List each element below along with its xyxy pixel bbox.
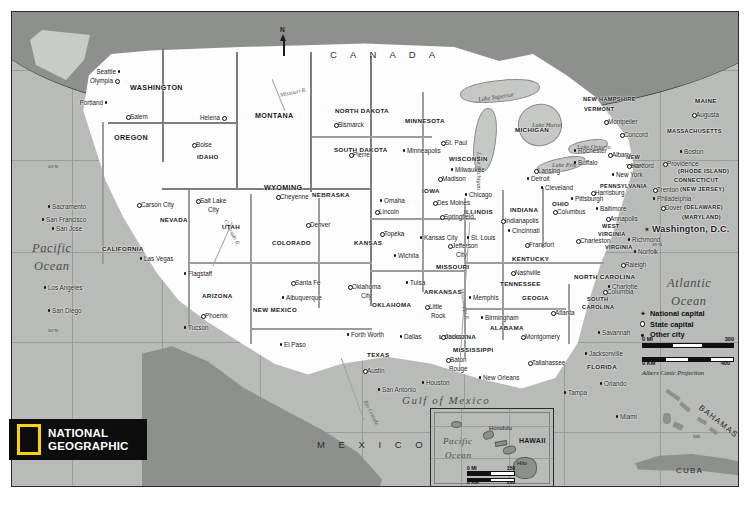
state-label-kentucky-20: KENTUCKY	[512, 256, 549, 262]
city-label-philadelphia-93: Philadelphia	[657, 196, 691, 202]
state-capital-marker-indianapolis-43	[501, 219, 506, 224]
city-label-neworleans-71: New Orleans	[483, 375, 519, 381]
city-label-carsoncity-23: Carson City	[141, 202, 174, 208]
state-label-alabama-34: ALABAMA	[490, 325, 524, 331]
state-capital-marker-springfield-39	[440, 215, 445, 220]
city-dot-philadelphia-93	[653, 197, 656, 200]
state-border	[236, 52, 238, 188]
city-dot-elpaso-35	[280, 343, 283, 346]
legend-item-national-capital: ✦ National capital	[639, 309, 739, 318]
state-capital-marker-dover-94	[661, 206, 666, 211]
city-label-pittsburgh-46: Pittsburgh	[575, 196, 603, 202]
state-capital-circle-icon	[639, 321, 646, 328]
state-label-minnesota-6: MINNESOTA	[405, 118, 445, 124]
state-capital-marker-olympia-1	[115, 79, 120, 84]
state-label-idaho-2: IDAHO	[197, 154, 219, 160]
city-label-elpaso-35: El Paso	[284, 342, 306, 348]
city-label-columbia-56: Columbia	[607, 289, 634, 295]
country-label-cuba: CUBA	[676, 467, 703, 475]
country-label-mexico: M E X I C O	[317, 440, 428, 450]
city-dot-losangeles-28	[44, 286, 47, 289]
state-capital-marker-nashville-57	[511, 271, 516, 276]
inset-city-hilo: Hilo	[517, 461, 527, 467]
state-border	[102, 122, 104, 264]
coordinate-tick: 30°N	[48, 328, 58, 333]
city-label-memphis-58: Memphis	[473, 295, 499, 301]
city-dot-cleveland-14	[541, 186, 544, 189]
city-dot-orlando-80	[600, 382, 603, 385]
state-capital-marker-trenton-92	[653, 188, 658, 193]
north-arrow-label: N	[280, 26, 285, 33]
state-capital-marker-jackson-72	[441, 335, 446, 340]
inset-scale-bar-graphic	[467, 478, 515, 482]
city-dot-sanfrancisco-25	[42, 218, 45, 221]
state-label-texas-37: TEXAS	[367, 352, 389, 358]
inset-scale-bar-miles: 0 MI 150	[467, 471, 515, 476]
state-capital-marker-charleston-51	[576, 239, 581, 244]
state-border	[188, 262, 372, 264]
city-dot-lasvegas-27	[140, 257, 143, 260]
city-dot-flagstaff-30	[184, 272, 187, 275]
city-label-birmingham-73: Birmingham	[485, 315, 519, 321]
state-label-northcarolina-30: NORTH CAROLINA	[574, 274, 635, 280]
state-capital-marker-salem-3	[126, 115, 131, 120]
state-label-wisconsin-7: WISCONSIN	[449, 156, 488, 162]
national-geographic-logo: NATIONAL GEOGRAPHIC	[9, 419, 147, 460]
state-label-ohio-14: OHIO	[552, 201, 569, 207]
scale-bar-graphic	[642, 343, 734, 348]
state-capital-marker-helena-5	[222, 116, 227, 121]
city-label-atlanta-75: Atlanta	[555, 310, 575, 316]
city-label-savannah-76: Savannah	[602, 330, 630, 336]
state-capital-marker-hartford-89	[627, 164, 632, 169]
ocean-label-pacific: Pacific	[32, 242, 72, 255]
city-label-baton-69: Baton	[450, 357, 466, 363]
state-border	[370, 56, 372, 306]
city-label-seattle-0: Seattle	[96, 69, 116, 75]
city-dot-kansascity-38	[420, 236, 423, 239]
city-label-washingtondc-95: Washington, D.C.	[652, 225, 729, 234]
city-label-montgomery-74: Montgomery	[525, 334, 560, 340]
city-dot-baltimore-47	[596, 207, 599, 210]
city-label-boise-4: Boise	[196, 142, 212, 148]
city-dot-rochester-88	[574, 149, 577, 152]
city-label-baltimore-47: Baltimore	[600, 206, 627, 212]
state-capital-marker-pierre-7	[349, 153, 354, 158]
city-label-lansing-12: Lansing	[538, 168, 560, 174]
city-dot-tucson-32	[184, 326, 187, 329]
city-label-stpaul-8: St. Paul	[445, 140, 467, 146]
state-border	[188, 188, 190, 328]
city-dot-minneapolis-9	[403, 149, 406, 152]
city-label-portland-2: Portland	[80, 100, 103, 106]
state-capital-marker-cheyenne-19	[276, 195, 281, 200]
state-label-utah-16: UTAH	[222, 224, 240, 230]
city-label-minneapolis-9: Minneapolis	[407, 148, 441, 154]
state-capital-marker-baton-69	[446, 358, 451, 363]
state-label-montana-3: MONTANA	[255, 112, 294, 119]
city-dot-birmingham-73	[481, 316, 484, 319]
city-dot-richmond-52	[628, 238, 631, 241]
legend-label: National capital	[650, 309, 705, 318]
city-label-sacramento-24: Sacramento	[52, 204, 86, 210]
state-label-indiana-13: INDIANA	[510, 207, 538, 213]
state-capital-marker-montgomery-74	[521, 335, 526, 340]
map-screenshot: N C A N A D AM E X I C OCUBABAHAMAS Paci…	[0, 0, 748, 507]
state-label-delaware-49: (DELAWARE)	[684, 205, 723, 211]
city-label-city-63: City	[361, 293, 372, 299]
city-dot-stlouis-40	[467, 236, 470, 239]
city-label-harrisburg-48: Harrisburg	[595, 190, 624, 196]
state-label-florida-38: FLORIDA	[587, 364, 617, 370]
city-label-dover-94: Dover	[665, 205, 682, 211]
state-capital-marker-little-59	[425, 305, 430, 310]
legend-item-state-capital: State capital	[639, 320, 739, 329]
state-capital-marker-lincoln-18	[375, 210, 380, 215]
city-label-detroit-13: Detroit	[531, 176, 550, 182]
city-dot-savannah-76	[598, 331, 601, 334]
inset-state-label: HAWAII	[519, 437, 546, 444]
city-dot-sanjose-26	[52, 227, 55, 230]
state-capital-marker-atlanta-75	[551, 311, 556, 316]
state-border	[542, 188, 544, 248]
city-label-cleveland-14: Cleveland	[545, 185, 573, 191]
city-label-buffalo-87: Buffalo	[578, 160, 598, 166]
state-label-wyoming-9: WYOMING	[264, 184, 302, 191]
coordinate-tick: 40°N	[48, 164, 58, 169]
